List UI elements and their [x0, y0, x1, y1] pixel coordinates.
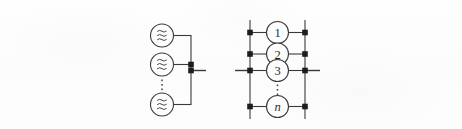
rung-n-left-node-dot — [247, 104, 253, 110]
ladder-rung-1: 1 — [247, 22, 308, 44]
rung-1-left-node-dot — [247, 30, 253, 36]
circuit-schematic-figure: 1 2 3 — [0, 0, 462, 129]
source-2-group — [151, 53, 192, 76]
left-panel-parallel-sources — [151, 24, 207, 116]
left-bus-node-dot — [188, 62, 194, 68]
left-bus-node-dot — [188, 68, 194, 74]
source-1-group — [151, 24, 192, 47]
rung-2-left-node-dot — [247, 51, 253, 57]
right-vertical-ellipsis-icon — [277, 85, 279, 96]
rung-1-label: 1 — [274, 26, 280, 40]
rung-2-right-node-dot — [302, 51, 308, 57]
ladder-rung-n: n — [247, 96, 308, 118]
figure-canvas: 1 2 3 — [0, 0, 462, 129]
rung-3-label: 3 — [274, 64, 280, 78]
right-panel-ladder-network: 1 2 3 — [235, 20, 320, 119]
source-3-group — [151, 93, 192, 116]
rung-3-left-node-dot — [247, 68, 253, 74]
rung-3-right-node-dot — [302, 68, 308, 74]
ladder-rung-3: 3 — [235, 60, 320, 82]
rung-n-right-node-dot — [302, 104, 308, 110]
left-vertical-ellipsis-icon — [161, 80, 163, 91]
rung-1-right-node-dot — [302, 30, 308, 36]
rung-n-label: n — [274, 100, 280, 114]
